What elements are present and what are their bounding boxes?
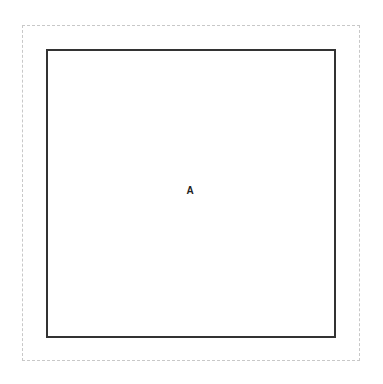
box-label: A xyxy=(180,185,200,196)
